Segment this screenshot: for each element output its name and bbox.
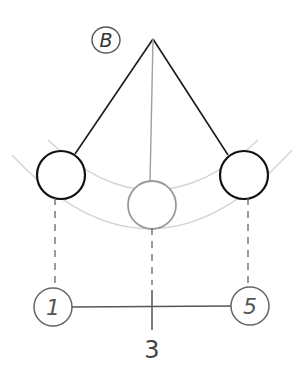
position-1-label: 1 [46, 295, 60, 320]
right-bob [220, 151, 268, 199]
position-1-marker: 1 [34, 288, 72, 326]
center-string [150, 39, 153, 183]
position-5-marker: 5 [231, 287, 269, 325]
pivot-label-text: B [99, 29, 112, 51]
position-3-label: 3 [144, 336, 159, 364]
left-string [75, 39, 153, 154]
right-string [153, 39, 228, 155]
center-bob [128, 181, 176, 229]
left-bob [37, 151, 85, 199]
position-5-label: 5 [243, 294, 257, 319]
pivot-label-b: B [92, 27, 120, 53]
pendulum-diagram: B 1 5 3 [0, 0, 301, 372]
